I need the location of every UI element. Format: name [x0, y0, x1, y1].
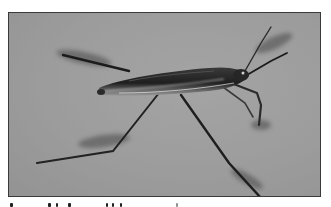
- caption-glyph: [10, 203, 13, 207]
- caption-glyph: [106, 203, 108, 207]
- insect-eye: [242, 72, 245, 75]
- caption-glyph: [48, 203, 51, 207]
- caption-glyph: [120, 203, 122, 207]
- photo-frame: [8, 12, 321, 197]
- caption-glyph: [68, 203, 71, 207]
- caption-glyph: [176, 203, 178, 207]
- caption-glyph: [56, 203, 58, 207]
- caption-cropped: [0, 199, 331, 207]
- insect-head: [233, 69, 249, 81]
- water-strider-photo: [9, 13, 321, 197]
- caption-glyph: [112, 203, 114, 207]
